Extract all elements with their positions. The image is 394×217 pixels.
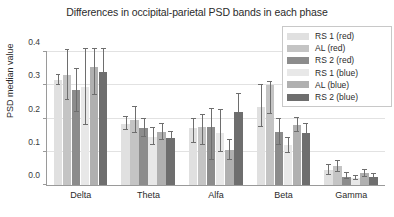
error-bar-cap-lower: [191, 142, 196, 143]
error-bar-cap-lower: [344, 178, 349, 179]
error-bar-cap-upper: [209, 108, 214, 109]
error-bar-cap-upper: [141, 118, 146, 119]
legend-label: RS 2 (blue): [315, 92, 358, 102]
error-bar-cap-lower: [123, 129, 128, 130]
error-bar: [193, 119, 194, 144]
error-bar-cap-upper: [267, 81, 272, 82]
error-bar-cap-lower: [101, 113, 106, 114]
legend-item: RS 1 (red): [287, 30, 388, 42]
x-axis-tick-label: Delta: [70, 190, 91, 200]
error-bar-cap-lower: [353, 179, 358, 180]
error-bar: [85, 49, 86, 125]
chart-figure: Differences in occipital-parietal PSD ba…: [0, 0, 394, 217]
error-bar-cap-lower: [285, 152, 290, 153]
error-bar-cap-lower: [335, 171, 340, 172]
error-bar: [171, 132, 172, 145]
legend-swatch: [287, 33, 309, 40]
legend-item: RS 2 (red): [287, 54, 388, 66]
error-bar-cap-upper: [92, 48, 97, 49]
error-bar-cap-lower: [303, 142, 308, 143]
error-bar: [202, 115, 203, 145]
error-bar: [135, 107, 136, 134]
y-axis-tick: [43, 84, 47, 85]
error-bar: [94, 49, 95, 96]
y-axis-tick: [43, 118, 47, 119]
error-bar-cap-upper: [74, 68, 79, 69]
error-bar-cap-upper: [200, 114, 205, 115]
error-bar: [103, 49, 104, 114]
error-bar-cap-lower: [326, 174, 331, 175]
bar-group: Theta: [121, 52, 175, 185]
error-bar-cap-upper: [123, 116, 128, 117]
error-bar-cap-lower: [227, 159, 232, 160]
error-bar-cap-lower: [362, 176, 367, 177]
bar: [166, 138, 175, 185]
error-bar-cap-upper: [294, 117, 299, 118]
error-bar-cap-lower: [132, 132, 137, 133]
x-axis-tick-label: Theta: [137, 190, 160, 200]
error-bar-cap-lower: [200, 144, 205, 145]
chart-title: Differences in occipital-parietal PSD ba…: [0, 6, 394, 18]
error-bar-cap-upper: [371, 173, 376, 174]
error-bar: [67, 50, 68, 100]
error-bar-cap-upper: [218, 109, 223, 110]
y-axis-tick: [43, 51, 47, 52]
x-axis-tick-label: Gamma: [335, 190, 367, 200]
error-bar: [270, 82, 271, 114]
error-bar-cap-upper: [101, 48, 106, 49]
error-bar-cap-lower: [209, 159, 214, 160]
bar-group: Delta: [54, 52, 108, 185]
error-bar: [279, 119, 280, 145]
error-bar-cap-upper: [191, 118, 196, 119]
error-bar-cap-lower: [294, 131, 299, 132]
error-bar: [153, 128, 154, 145]
error-bar-cap-upper: [168, 131, 173, 132]
bar: [121, 124, 130, 186]
legend-label: AL (red): [315, 43, 345, 53]
chart-legend: RS 1 (red)AL (red)RS 2 (red)RS 1 (blue)A…: [282, 26, 392, 107]
error-bar-cap-lower: [267, 113, 272, 114]
y-axis-tick-label: 0.1: [28, 137, 40, 147]
legend-swatch: [287, 45, 309, 52]
error-bar-cap-lower: [258, 126, 263, 127]
error-bar-cap-upper: [335, 160, 340, 161]
error-bar: [211, 109, 212, 161]
error-bar: [261, 85, 262, 127]
error-bar: [162, 124, 163, 141]
error-bar-cap-upper: [236, 93, 241, 94]
error-bar-cap-lower: [83, 124, 88, 125]
x-axis-tick-label: Alfa: [208, 190, 224, 200]
error-bar-cap-lower: [92, 94, 97, 95]
y-axis-label: PSD median value: [5, 43, 15, 118]
y-axis-tick: [43, 151, 47, 152]
error-bar-cap-upper: [65, 49, 70, 50]
legend-label: RS 1 (blue): [315, 68, 358, 78]
error-bar: [126, 117, 127, 130]
bar-group: Alfa: [189, 52, 243, 185]
legend-label: AL (blue): [315, 80, 349, 90]
error-bar-cap-upper: [227, 139, 232, 140]
legend-swatch: [287, 69, 309, 76]
error-bar: [220, 110, 221, 152]
error-bar-cap-lower: [141, 136, 146, 137]
error-bar: [76, 69, 77, 112]
error-bar-cap-upper: [258, 84, 263, 85]
error-bar-cap-upper: [303, 123, 308, 124]
error-bar-cap-upper: [83, 48, 88, 49]
error-bar-cap-lower: [276, 144, 281, 145]
error-bar-cap-upper: [362, 169, 367, 170]
error-bar-cap-lower: [56, 84, 61, 85]
error-bar-cap-upper: [159, 123, 164, 124]
y-axis-tick: [43, 184, 47, 185]
legend-swatch: [287, 94, 309, 101]
error-bar-cap-lower: [218, 151, 223, 152]
error-bar-cap-upper: [344, 172, 349, 173]
x-axis-tick-label: Beta: [274, 190, 293, 200]
y-axis-tick-label: 0.0: [28, 170, 40, 180]
legend-item: AL (blue): [287, 79, 388, 91]
legend-label: RS 2 (red): [315, 55, 354, 65]
error-bar-cap-lower: [168, 144, 173, 145]
error-bar-cap-upper: [326, 164, 331, 165]
error-bar-cap-upper: [276, 118, 281, 119]
y-axis-tick-label: 0.2: [28, 104, 40, 114]
